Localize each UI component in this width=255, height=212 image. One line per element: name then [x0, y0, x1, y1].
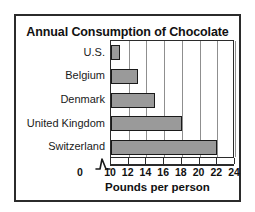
x-tick-label: 16: [157, 166, 169, 178]
x-tick: [199, 158, 200, 164]
category-label: Belgium: [65, 68, 105, 82]
x-tick-label: 22: [210, 166, 222, 178]
x-tick-label: 20: [193, 166, 205, 178]
gridline: [217, 41, 218, 157]
x-tick-labels: 01012141618202224: [76, 166, 239, 180]
chart-title: Annual Consumption of Chocolate: [16, 25, 239, 39]
x-tick-label: 24: [228, 166, 240, 178]
x-tick-label: 18: [175, 166, 187, 178]
x-tick: [216, 158, 217, 164]
x-tick-label: 14: [140, 166, 152, 178]
x-tick: [128, 158, 129, 164]
bar: [111, 45, 120, 60]
bar: [111, 69, 138, 84]
category-axis: U.S.BelgiumDenmarkUnited KingdomSwitzerl…: [16, 40, 109, 158]
category-label: Denmark: [60, 92, 105, 106]
x-tick: [181, 158, 182, 164]
x-tick-label: 0: [77, 166, 83, 178]
x-tick: [145, 158, 146, 164]
x-tick: [234, 158, 235, 164]
plot-area: [110, 40, 234, 158]
chart-figure: Annual Consumption of Chocolate U.S.Belg…: [14, 14, 241, 202]
bar: [111, 116, 182, 131]
tick-row: [110, 158, 234, 165]
bar: [111, 140, 217, 155]
x-axis-title: Pounds per person: [76, 181, 239, 193]
plot-wrapper: U.S.BelgiumDenmarkUnited KingdomSwitzerl…: [16, 40, 239, 200]
x-tick: [163, 158, 164, 164]
category-label: U.S.: [84, 45, 105, 59]
x-tick-label: 10: [104, 166, 116, 178]
category-label: United Kingdom: [27, 116, 105, 130]
category-label: Switzerland: [48, 139, 105, 153]
x-tick-label: 12: [122, 166, 134, 178]
gridline: [235, 41, 236, 157]
bar: [111, 93, 155, 108]
